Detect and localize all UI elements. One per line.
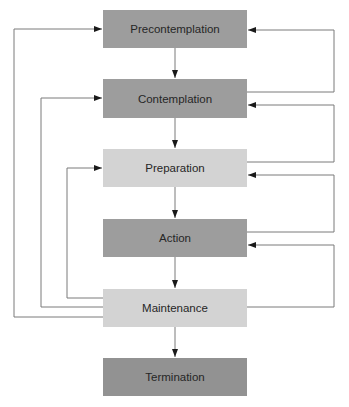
stage-contemplation: Contemplation <box>103 79 247 118</box>
stage-label: Maintenance <box>142 302 208 314</box>
loop-contemplation-to-precontemplation <box>247 30 334 92</box>
stage-label: Action <box>159 232 191 244</box>
loop-maintenance-to-contemplation <box>41 98 103 307</box>
stage-label: Preparation <box>145 162 204 174</box>
loop-action-to-preparation <box>247 175 334 232</box>
loop-maintenance-to-action <box>247 245 334 307</box>
loop-maintenance-to-precontemplation <box>14 29 103 317</box>
stage-precontemplation: Precontemplation <box>103 10 247 48</box>
stage-preparation: Preparation <box>103 149 247 187</box>
loop-maintenance-to-preparation <box>67 168 103 298</box>
stage-action: Action <box>103 219 247 257</box>
connector-lines <box>0 0 349 407</box>
stage-label: Termination <box>145 371 204 383</box>
stage-label: Contemplation <box>138 93 212 105</box>
stage-maintenance: Maintenance <box>103 289 247 327</box>
stage-termination: Termination <box>103 358 247 396</box>
loop-preparation-to-contemplation <box>247 105 334 162</box>
stage-label: Precontemplation <box>130 23 220 35</box>
stages-of-change-diagram: Precontemplation Contemplation Preparati… <box>0 0 349 407</box>
